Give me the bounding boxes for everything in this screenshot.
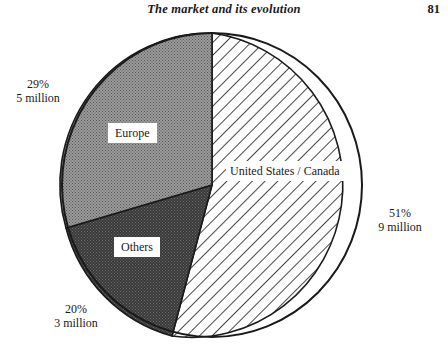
europe-percent: 29% xyxy=(14,77,62,91)
europe-value: 5 million xyxy=(14,91,62,105)
others-percent: 20% xyxy=(48,302,104,316)
value-label-europe: 29% 5 million xyxy=(14,77,62,105)
us-canada-percent: 51% xyxy=(372,206,428,220)
slice-label-others: Others xyxy=(114,237,160,257)
slice-label-us-canada: United States / Canada xyxy=(226,161,344,181)
us-canada-value: 9 million xyxy=(372,220,428,234)
pie-chart xyxy=(0,0,448,353)
value-label-others: 20% 3 million xyxy=(48,302,104,330)
slice-label-europe: Europe xyxy=(108,123,157,143)
value-label-us-canada: 51% 9 million xyxy=(372,206,428,234)
others-value: 3 million xyxy=(48,316,104,330)
